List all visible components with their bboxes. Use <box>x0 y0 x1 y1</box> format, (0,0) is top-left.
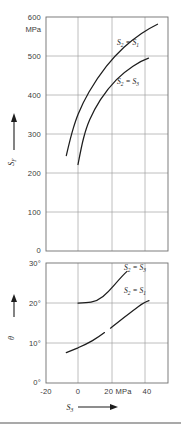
lower-ytick-30: 30° <box>29 259 41 268</box>
upper-ytick-0: 0 <box>37 246 41 255</box>
xtick-0: 0 <box>76 387 80 396</box>
upper-ytick-200: 200 <box>28 169 41 178</box>
upper-panel-horizontal-grid <box>46 56 168 212</box>
upper-ytick-500: 500 <box>28 52 41 61</box>
curve-lower-s2-eq-s3 <box>78 271 127 303</box>
x-axis-arrow <box>78 404 118 410</box>
lower-panel-frame <box>46 263 168 383</box>
upper-ytick-400: 400 <box>28 91 41 100</box>
upper-y-axis-arrow <box>11 113 17 150</box>
lower-y-axis-label: θ <box>7 336 16 340</box>
xtick-20-mpa: 20 MPa <box>104 387 132 396</box>
upper-ytick-600: 600 <box>28 13 41 22</box>
upper-panel: 600 MPa 500 400 300 200 100 0 SF S2 = S1 <box>7 13 168 255</box>
x-axis-label: S3 <box>67 403 74 413</box>
upper-y-arrow-head <box>11 113 17 122</box>
upper-y-axis-symbol-sub: F <box>11 158 17 163</box>
svg-text:SF: SF <box>7 158 17 166</box>
lower-y-arrow-head <box>11 294 17 302</box>
xtick-minus20: -20 <box>40 387 52 396</box>
lower-ytick-0: 0° <box>33 378 41 387</box>
lower-y-axis-arrow <box>11 294 17 317</box>
upper-ytick-100: 100 <box>28 208 41 217</box>
upper-y-unit: MPa <box>25 25 41 34</box>
stress-fracture-angle-figure: 600 MPa 500 400 300 200 100 0 SF S2 = S1 <box>0 0 181 430</box>
upper-curve-label-s2-s1: S2 = S1 <box>117 38 139 48</box>
upper-ytick-300: 300 <box>28 130 41 139</box>
lower-curve-label-s2-s3: S2 = S3 <box>124 263 146 273</box>
lower-ytick-10: 10° <box>29 339 41 348</box>
xtick-40: 40 <box>143 387 152 396</box>
curve-lower-s2-eq-s1-segment-a <box>66 333 104 353</box>
lower-curve-label-s2-s1: S2 = S1 <box>124 286 146 296</box>
lower-ytick-20: 20° <box>29 299 41 308</box>
svg-text:θ: θ <box>7 336 16 340</box>
lower-panel: 30° 20° 10° 0° θ -20 0 20 MPa 40 S3 <box>7 259 168 413</box>
x-arrow-head <box>110 404 118 410</box>
curve-upper-s2-eq-s3 <box>78 58 149 164</box>
upper-curve-label-s2-s3: S2 = S3 <box>117 77 139 87</box>
upper-y-axis-label: SF <box>7 158 17 166</box>
figure-container: 600 MPa 500 400 300 200 100 0 SF S2 = S1 <box>0 0 181 430</box>
lower-panel-horizontal-grid <box>46 303 168 343</box>
curve-lower-s2-eq-s1-segment-b <box>111 301 150 329</box>
lower-panel-vertical-grid <box>78 263 145 383</box>
